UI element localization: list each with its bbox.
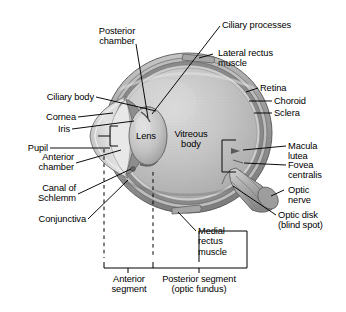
label-medial-rectus-muscle: Medial rectus muscle bbox=[198, 226, 250, 257]
label-posterior-segment: Posterior segment (optic fundus) bbox=[146, 274, 252, 295]
label-canal-of-schlemm: Canal of Schlemm bbox=[14, 183, 76, 204]
label-fovea-centralis: Fovea centralis bbox=[288, 160, 344, 181]
label-retina: Retina bbox=[260, 83, 320, 93]
label-optic-nerve: Optic nerve bbox=[288, 185, 334, 206]
label-posterior-chamber: Posterior chamber bbox=[84, 26, 150, 47]
eye-anatomy-diagram: Posterior chamber Ciliary processes Late… bbox=[0, 0, 346, 312]
label-ciliary-body: Ciliary body bbox=[14, 92, 94, 102]
label-cornea: Cornea bbox=[18, 112, 76, 122]
label-ciliary-processes: Ciliary processes bbox=[222, 20, 334, 30]
label-macula-lutea: Macula lutea bbox=[288, 141, 342, 162]
label-conjunctiva: Conjunctiva bbox=[6, 214, 86, 224]
canal-of-schlemm-region bbox=[131, 167, 136, 172]
label-optic-disk: Optic disk (blind spot) bbox=[278, 210, 346, 231]
label-lateral-rectus-muscle: Lateral rectus muscle bbox=[218, 48, 314, 69]
label-iris: Iris bbox=[28, 124, 70, 134]
label-lens: Lens bbox=[128, 131, 164, 141]
label-choroid: Choroid bbox=[274, 96, 336, 106]
label-anterior-chamber: Anterior chamber bbox=[14, 152, 74, 173]
label-vitreous-body: Vitreous body bbox=[164, 129, 218, 150]
label-sclera: Sclera bbox=[274, 108, 330, 118]
